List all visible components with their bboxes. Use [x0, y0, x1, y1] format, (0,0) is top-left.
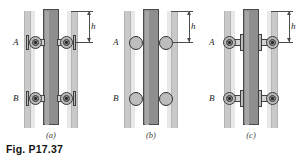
dim-arrow-top-c	[287, 11, 291, 15]
guide-rail-right	[271, 11, 278, 128]
center-column	[243, 9, 259, 125]
dimension-label-h-a: h	[91, 22, 96, 31]
roller-lower-right	[159, 92, 173, 106]
sub-caption-a: (a)	[0, 130, 102, 140]
dim-arrow-top-a	[87, 11, 91, 15]
center-column-highlight	[245, 11, 249, 125]
guide-rail-right	[171, 11, 178, 128]
guide-rail-left	[124, 11, 131, 128]
sub-caption-c: (c)	[200, 130, 302, 140]
diagram-panel-b: A B h (b)	[100, 0, 202, 148]
roller-upper-right	[266, 36, 279, 49]
guide-rail-right	[71, 11, 78, 128]
center-column	[143, 9, 159, 125]
dim-ext-bottom-a	[76, 42, 93, 43]
point-label-c-upper: A	[209, 38, 215, 47]
point-label-b-upper: A	[113, 38, 119, 47]
dim-arrow-bottom-b	[187, 38, 191, 42]
roller-upper-left	[129, 36, 143, 50]
roller-lower-left	[129, 92, 143, 106]
center-column-highlight	[145, 11, 149, 125]
point-label-c-lower: B	[209, 94, 215, 103]
dim-ext-bottom-b	[172, 42, 193, 43]
roller-lower-right	[266, 92, 279, 105]
guide-rail-left-shadow	[231, 11, 235, 128]
guide-rail-left	[224, 11, 231, 128]
center-column-highlight	[45, 11, 49, 125]
roller-lower-right	[60, 92, 73, 105]
roller-lower-left	[223, 92, 236, 105]
point-label-a-upper: A	[13, 38, 19, 47]
guide-rail-left-shadow	[31, 11, 35, 128]
bracket-plate-c-left-upper	[240, 34, 244, 51]
bracket-plate-a-right-lower	[73, 91, 76, 106]
dim-ext-bottom-c	[279, 42, 293, 43]
bracket-plate-c-right-lower	[258, 90, 262, 107]
roller-upper-left	[223, 36, 236, 49]
figure-caption: Fig. P17.37	[6, 143, 63, 155]
dim-arrow-top-b	[187, 11, 191, 15]
guide-rail-right-shadow	[67, 11, 71, 128]
center-column	[43, 9, 59, 125]
diagram-panel-a: A B h (a)	[0, 0, 102, 148]
point-label-a-lower: B	[13, 94, 19, 103]
guide-rail-right-shadow	[167, 11, 171, 128]
dim-arrow-bottom-c	[287, 38, 291, 42]
dimension-label-h-c: h	[291, 22, 296, 31]
dimension-label-h-b: h	[191, 22, 196, 31]
diagram-panel-c: A B h (c)	[200, 0, 302, 148]
figure-p17-37: A B h (a) A B	[0, 0, 306, 161]
bracket-plate-c-left-lower	[240, 90, 244, 107]
sub-caption-b: (b)	[100, 130, 202, 140]
bracket-plate-c-right-upper	[258, 34, 262, 51]
guide-rail-left-shadow	[131, 11, 135, 128]
roller-lower-left	[29, 92, 42, 105]
guide-rail-left	[24, 11, 31, 128]
roller-upper-right	[60, 36, 73, 49]
roller-upper-left	[29, 36, 42, 49]
dim-arrow-bottom-a	[87, 38, 91, 42]
roller-upper-right	[159, 36, 173, 50]
guide-rail-right-shadow	[267, 11, 271, 128]
point-label-b-lower: B	[113, 94, 119, 103]
